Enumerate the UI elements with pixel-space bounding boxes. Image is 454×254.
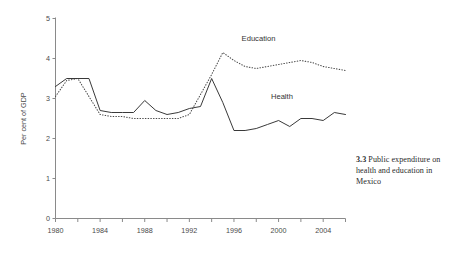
y-axis-label: Per cent of GDP	[19, 92, 28, 145]
series-line-health	[56, 79, 346, 131]
x-axis-tick-label: 2004	[315, 226, 331, 235]
figure-container: 0123451980198419881992199620002004 Educa…	[0, 0, 454, 254]
y-axis-tick-label: 1	[46, 174, 50, 183]
figure-caption: 3.3 Public expenditure on health and edu…	[356, 154, 452, 188]
y-axis-title: Per cent of GDP	[19, 92, 28, 145]
x-axis-tick-label: 1984	[92, 226, 108, 235]
x-axis-tick-label: 1996	[226, 226, 242, 235]
x-axis-tick-label: 1980	[48, 226, 64, 235]
x-axis-tick-label: 2000	[271, 226, 287, 235]
x-axis-tick-label: 1988	[137, 226, 153, 235]
y-axis-tick-label: 3	[46, 94, 50, 103]
series-annotation-education: Education	[242, 34, 276, 43]
figure-caption-text: Public expenditure on health and educati…	[356, 155, 440, 186]
data-series	[56, 53, 346, 131]
x-axis-tick-label: 1992	[181, 226, 197, 235]
figure-number: 3.3	[356, 155, 366, 164]
y-axis-tick-label: 0	[46, 214, 50, 223]
y-axis-tick-label: 4	[46, 54, 50, 63]
line-chart: 0123451980198419881992199620002004 Educa…	[0, 0, 454, 254]
y-axis-tick-label: 2	[46, 134, 50, 143]
axes: 0123451980198419881992199620002004	[46, 14, 346, 234]
y-axis-tick-label: 5	[46, 14, 50, 23]
series-annotation-health: Health	[271, 92, 293, 101]
